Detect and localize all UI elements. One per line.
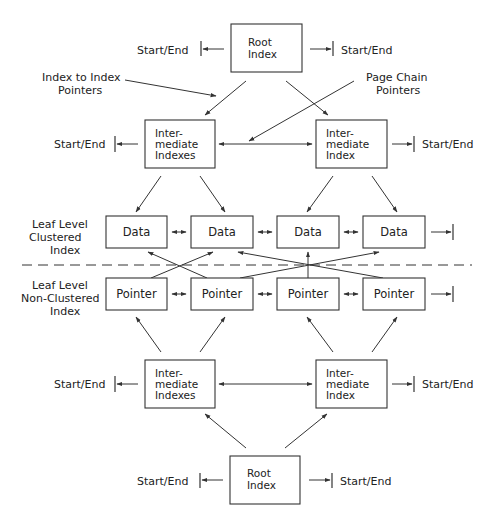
svg-text:Pointer: Pointer <box>374 287 415 301</box>
svg-text:Start/End: Start/End <box>137 475 188 488</box>
arrow-icon <box>307 176 333 212</box>
index-structure-diagram: Root Index Start/End Start/End Index to … <box>0 0 494 524</box>
data-node-3: Data <box>277 216 339 248</box>
bottom-root-start-end-right: Start/End <box>309 473 391 488</box>
clustered-leaf-level-label: Leaf Level Clustered Index <box>29 218 88 257</box>
data-node-1: Data <box>106 216 167 248</box>
arrow-icon <box>136 176 161 212</box>
svg-text:Non-Clustered: Non-Clustered <box>21 292 99 305</box>
svg-text:Pointers: Pointers <box>376 84 421 97</box>
arrow-icon <box>372 176 397 212</box>
root-to-left-arrow-icon <box>205 414 246 448</box>
svg-text:Start/End: Start/End <box>54 138 105 151</box>
svg-text:Clustered: Clustered <box>29 231 82 244</box>
svg-text:Pointer: Pointer <box>288 287 329 301</box>
arrow-icon <box>200 317 225 352</box>
svg-text:Index: Index <box>326 389 355 401</box>
svg-text:Data: Data <box>294 225 321 239</box>
nonclustered-leaf-level-label: Leaf Level Non-Clustered Index <box>21 279 99 318</box>
top-intermediate-left-node: Inter- mediate Indexes <box>145 120 215 168</box>
bottom-root-start-end-left: Start/End <box>137 473 223 488</box>
svg-text:Start/End: Start/End <box>422 138 473 151</box>
bottom-intermediate-left-node: Inter- mediate Indexes <box>145 360 215 408</box>
svg-text:Data: Data <box>380 225 407 239</box>
arrow-icon <box>372 317 397 352</box>
bottom-root-index-node: Root Index <box>230 456 300 504</box>
top-root-line1: Root <box>248 36 272 48</box>
arrow-icon <box>200 176 225 212</box>
svg-text:Pointer: Pointer <box>202 287 243 301</box>
svg-text:Index: Index <box>326 149 355 161</box>
data-node-2: Data <box>191 216 253 248</box>
top-root-start-end-right: Start/End <box>310 41 392 57</box>
svg-text:Start/End: Start/End <box>422 378 473 391</box>
pointer-node-3: Pointer <box>277 278 339 310</box>
annotation-arrow-icon <box>125 80 216 96</box>
root-to-right-arrow-icon <box>285 414 327 448</box>
arrow-icon <box>307 317 333 352</box>
svg-text:Start/End: Start/End <box>340 475 391 488</box>
top-root-start-end-left: Start/End <box>137 41 224 57</box>
data-node-4: Data <box>363 216 425 248</box>
svg-text:Indexes: Indexes <box>155 149 196 161</box>
annotation-index-to-index-pointers: Index to Index Pointers <box>42 71 216 97</box>
svg-text:Leaf Level: Leaf Level <box>32 218 88 231</box>
svg-text:Data: Data <box>208 225 235 239</box>
bottom-intermediate-right-node: Inter- mediate Index <box>316 360 387 408</box>
svg-text:Pointers: Pointers <box>58 84 103 97</box>
svg-text:Index to Index: Index to Index <box>42 71 121 84</box>
root-to-right-arrow-icon <box>286 81 328 115</box>
top-intermediate-start-end-left: Start/End <box>54 136 138 152</box>
top-root-index-node: Root Index <box>231 24 302 72</box>
svg-text:Indexes: Indexes <box>155 389 196 401</box>
arrow-icon <box>136 317 161 352</box>
svg-text:Index: Index <box>247 479 276 491</box>
start-end-label: Start/End <box>137 44 188 57</box>
top-intermediate-start-end-right: Start/End <box>392 136 473 152</box>
start-end-label: Start/End <box>341 44 392 57</box>
pointer-node-2: Pointer <box>191 278 253 310</box>
svg-text:Index: Index <box>50 305 81 318</box>
top-root-line2: Index <box>248 48 277 60</box>
pointer-node-1: Pointer <box>106 278 167 310</box>
svg-text:Pointer: Pointer <box>116 287 157 301</box>
svg-text:Leaf Level: Leaf Level <box>32 279 88 292</box>
pointer-node-4: Pointer <box>363 278 425 310</box>
top-intermediate-right-node: Inter- mediate Index <box>316 120 387 168</box>
svg-text:Index: Index <box>50 244 81 257</box>
svg-text:Page Chain: Page Chain <box>366 71 428 84</box>
svg-text:Start/End: Start/End <box>54 378 105 391</box>
bottom-intermediate-start-end-left: Start/End <box>54 376 138 392</box>
svg-text:Root: Root <box>247 467 271 479</box>
bottom-intermediate-start-end-right: Start/End <box>392 376 473 392</box>
root-to-left-arrow-icon <box>205 81 246 115</box>
svg-text:Data: Data <box>123 225 150 239</box>
